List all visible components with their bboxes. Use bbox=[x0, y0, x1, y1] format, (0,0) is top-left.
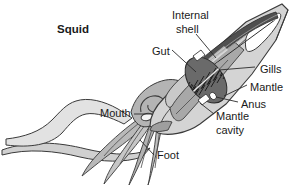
label-mantle-cavity-line1: Mantle bbox=[216, 111, 249, 123]
label-anus: Anus bbox=[241, 99, 266, 111]
label-gills: Gills bbox=[260, 64, 281, 76]
label-mantle-cavity-line2: cavity bbox=[216, 125, 244, 137]
label-mantle: Mantle bbox=[250, 82, 283, 94]
label-gut: Gut bbox=[152, 46, 170, 58]
label-mouth: Mouth bbox=[100, 108, 131, 120]
label-internal-shell-line1: Internal bbox=[172, 10, 209, 22]
label-foot: Foot bbox=[157, 150, 179, 162]
label-internal-shell-line2: shell bbox=[176, 24, 199, 36]
squid-diagram-figure: Squid Internal shell Gut Gills Mantle An… bbox=[0, 0, 296, 185]
figure-title: Squid bbox=[57, 24, 89, 36]
